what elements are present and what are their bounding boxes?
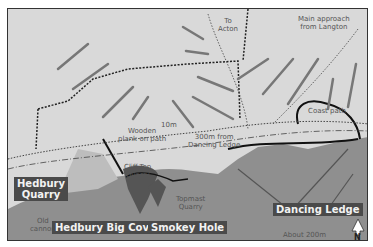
label-10m: 10m: [161, 121, 177, 129]
label-to-acton: To Acton: [218, 17, 238, 33]
label-cliff-top-quarry: Cliff-Top Quarry: [124, 163, 151, 179]
place-hedbury-quarry: Hedbury Quarry: [14, 177, 68, 201]
place-hedbury-big-cove: Hedbury Big Cove: [52, 221, 159, 234]
label-main-approach: Main approach from Langton: [298, 15, 350, 31]
label-300m: 300m from Dancing Ledge: [188, 133, 240, 149]
scale-bar-label: About 200m: [283, 231, 326, 239]
north-label: N: [354, 234, 361, 241]
label-coast-path: Coast path: [308, 107, 346, 115]
map-frame: To Acton Main approach from Langton Coas…: [7, 8, 368, 241]
place-dancing-ledge: Dancing Ledge: [273, 203, 363, 216]
place-smokey-hole: Smokey Hole: [148, 221, 227, 234]
label-wooden-plank: Wooden plank on path: [118, 127, 166, 143]
label-topmast-quarry: Topmast Quarry: [176, 195, 205, 211]
